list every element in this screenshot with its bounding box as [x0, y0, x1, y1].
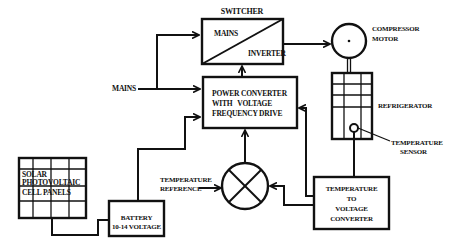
comparator-junction — [222, 163, 268, 209]
solar-line3: CELL PANELS — [22, 188, 71, 197]
power-converter-line2: WITH VOLTAGE — [212, 99, 272, 108]
power-converter-block: POWER CONVERTER WITH VOLTAGE FREQUENCY D… — [203, 77, 297, 128]
refrigerator-block: REFRIGERATOR TEMPERATURE SENSOR — [332, 73, 443, 156]
line-solar-to-battery — [52, 218, 109, 235]
motor-shaft-dot — [348, 40, 351, 43]
switcher-title: SWITCHER — [221, 7, 264, 16]
switcher-inverter-label: INVERTER — [248, 49, 287, 58]
motor-label-line1: COMPRESSOR — [372, 25, 421, 33]
temperature-reference-line1: TEMPERATURE — [160, 176, 212, 184]
power-converter-line3: FREQUENCY DRIVE — [212, 109, 282, 118]
battery-line1: BATTERY — [121, 214, 153, 222]
motor-label-line2: MOTOR — [372, 35, 399, 43]
temperature-reference-line2: REFERENCE — [160, 185, 202, 193]
converter-line4: CONVERTER — [330, 215, 374, 223]
arrow-converter-to-power-converter — [299, 108, 314, 196]
arrow-mains-to-switcher — [157, 35, 199, 89]
power-converter-line1: POWER CONVERTER — [212, 89, 288, 98]
temp-to-voltage-converter-block: TEMPERATURE TO VOLTAGE CONVERTER — [314, 177, 389, 229]
converter-line2: TO — [347, 195, 357, 203]
solar-panels-block: SOLAR PHOTOVOLTAIC CELL PANELS — [19, 158, 86, 218]
compressor-motor-block: COMPRESSOR MOTOR — [332, 24, 421, 58]
sensor-label-line2: SENSOR — [400, 148, 428, 156]
temperature-sensor-icon — [350, 124, 358, 132]
converter-line3: VOLTAGE — [335, 205, 368, 213]
refrigerator-label: REFRIGERATOR — [378, 102, 433, 110]
switcher-mains-label: MAINS — [214, 29, 238, 38]
solar-line2: PHOTOVOLTAIC — [22, 178, 80, 187]
mains-label: MAINS — [112, 84, 136, 93]
battery-block: BATTERY 10-14 VOLTAGE — [109, 201, 164, 236]
battery-line2: 10-14 VOLTAGE — [112, 223, 162, 231]
switcher-block: SWITCHER MAINS INVERTER — [202, 7, 287, 64]
solar-refrigerator-block-diagram: SWITCHER MAINS INVERTER POWER CONVERTER … — [0, 0, 456, 250]
sensor-label-line1: TEMPERATURE — [391, 139, 443, 147]
converter-line1: TEMPERATURE — [326, 185, 378, 193]
